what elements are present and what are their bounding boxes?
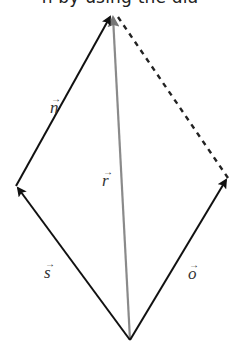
vector-arrow-icon: → [103, 167, 113, 177]
vector-diagram [0, 0, 240, 341]
vector-s [18, 188, 130, 340]
vector-r [113, 17, 130, 340]
dashed-side [118, 17, 228, 178]
vector-o [130, 180, 226, 340]
vector-arrow-icon: → [189, 260, 199, 270]
label-r: → r [102, 172, 109, 189]
label-o: → o [188, 265, 197, 282]
vector-arrow-icon: → [51, 94, 61, 104]
vector-n [16, 17, 110, 186]
vector-arrow-icon: → [45, 259, 55, 269]
label-n: → n [50, 99, 59, 116]
label-s: → s [44, 264, 51, 281]
